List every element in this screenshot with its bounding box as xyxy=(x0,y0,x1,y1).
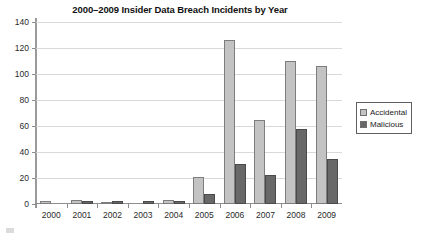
bar-malicious-2004 xyxy=(174,201,185,204)
bars-layer: 2000200120022003200420052006200720082009 xyxy=(36,22,342,204)
legend-item-malicious[interactable]: Malicious xyxy=(360,118,407,130)
bar-group-2007: 2007 xyxy=(250,22,281,204)
bar-group-2002: 2002 xyxy=(97,22,128,204)
x-axis-label-2006: 2006 xyxy=(225,210,244,220)
bar-malicious-2005 xyxy=(204,194,215,204)
plot-area: 020406080100120140 200020012002200320042… xyxy=(36,22,342,204)
bar-accidental-2000 xyxy=(40,201,51,204)
bar-group-2000: 2000 xyxy=(36,22,67,204)
bar-accidental-2006 xyxy=(224,40,235,204)
x-axis-label-2003: 2003 xyxy=(134,210,153,220)
bar-group-2005: 2005 xyxy=(189,22,220,204)
bar-accidental-2009 xyxy=(316,66,327,204)
malicious-swatch-icon xyxy=(360,121,367,128)
x-axis-label-2007: 2007 xyxy=(256,210,275,220)
bar-accidental-2005 xyxy=(193,177,204,204)
x-tick-2005 xyxy=(189,204,190,208)
bar-chart-figure: 2000–2009 Insider Data Breach Incidents … xyxy=(0,0,422,238)
scan-artifact xyxy=(6,228,14,233)
x-tick-2000 xyxy=(36,204,37,208)
x-tick-2002 xyxy=(97,204,98,208)
x-axis-label-2001: 2001 xyxy=(72,210,91,220)
y-axis-label-120: 120 xyxy=(15,43,29,53)
y-axis-label-60: 60 xyxy=(20,121,29,131)
x-tick-2001 xyxy=(67,204,68,208)
bar-group-2006: 2006 xyxy=(220,22,251,204)
chart-legend: AccidentalMalicious xyxy=(356,102,412,134)
y-axis-label-40: 40 xyxy=(20,147,29,157)
legend-item-accidental[interactable]: Accidental xyxy=(360,106,407,118)
bar-group-2008: 2008 xyxy=(281,22,312,204)
x-axis-label-2002: 2002 xyxy=(103,210,122,220)
chart-title: 2000–2009 Insider Data Breach Incidents … xyxy=(0,4,360,15)
bar-malicious-2008 xyxy=(296,129,307,204)
x-axis-label-2005: 2005 xyxy=(195,210,214,220)
x-axis-label-2004: 2004 xyxy=(164,210,183,220)
x-axis-label-2000: 2000 xyxy=(42,210,61,220)
bar-accidental-2004 xyxy=(163,200,174,204)
y-axis-label-100: 100 xyxy=(15,69,29,79)
bar-group-2009: 2009 xyxy=(311,22,342,204)
bar-malicious-2006 xyxy=(235,164,246,204)
y-axis-label-20: 20 xyxy=(20,173,29,183)
accidental-swatch-icon xyxy=(360,109,367,116)
bar-accidental-2008 xyxy=(285,61,296,204)
bar-accidental-2002 xyxy=(101,202,112,204)
x-tick-2006 xyxy=(220,204,221,208)
legend-label-malicious: Malicious xyxy=(370,120,403,129)
x-tick-2003 xyxy=(128,204,129,208)
x-tick-2004 xyxy=(158,204,159,208)
y-axis-label-0: 0 xyxy=(24,199,29,209)
bar-group-2004: 2004 xyxy=(158,22,189,204)
bar-malicious-2002 xyxy=(112,201,123,204)
y-axis-label-80: 80 xyxy=(20,95,29,105)
bar-group-2003: 2003 xyxy=(128,22,159,204)
bar-accidental-2007 xyxy=(254,120,265,205)
x-tick-2007 xyxy=(250,204,251,208)
legend-label-accidental: Accidental xyxy=(370,108,407,117)
bar-accidental-2001 xyxy=(71,200,82,204)
y-axis-label-140: 140 xyxy=(15,17,29,27)
bar-malicious-2007 xyxy=(265,175,276,204)
bar-malicious-2001 xyxy=(82,201,93,204)
x-tick-2009 xyxy=(311,204,312,208)
x-axis-label-2009: 2009 xyxy=(317,210,336,220)
x-axis-label-2008: 2008 xyxy=(287,210,306,220)
bar-group-2001: 2001 xyxy=(67,22,98,204)
bar-malicious-2003 xyxy=(143,201,154,204)
x-tick-2008 xyxy=(281,204,282,208)
bar-malicious-2009 xyxy=(327,159,338,205)
